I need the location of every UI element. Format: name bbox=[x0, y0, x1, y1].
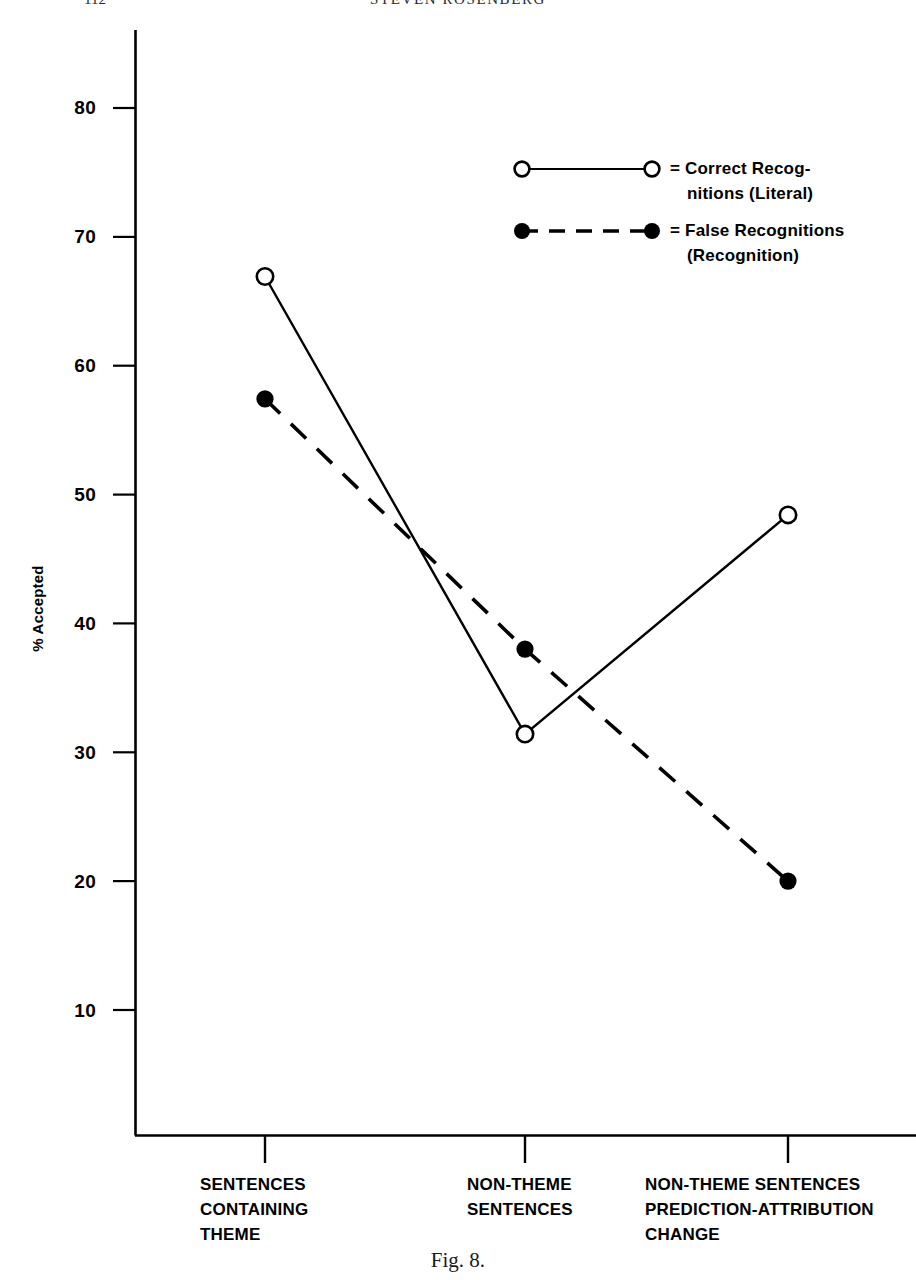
series-false-recognitions bbox=[256, 390, 796, 889]
legend-label-false-recognitions: = False Recognitions (Recognition) bbox=[670, 218, 845, 268]
x-category-label-2: NON-THEME SENTENCES bbox=[467, 1172, 573, 1222]
x-category-label-3-line-2: PREDICTION-ATTRIBUTION bbox=[645, 1197, 874, 1222]
y-axis-title: % Accepted bbox=[29, 549, 46, 669]
data-point-false-3 bbox=[779, 873, 796, 890]
series-correct-recognitions-line bbox=[265, 277, 788, 735]
x-category-label-1-line-3: THEME bbox=[200, 1222, 308, 1247]
data-point-correct-3 bbox=[780, 507, 796, 523]
y-tick-label-80: 80 bbox=[40, 97, 96, 119]
x-category-label-1-line-1: SENTENCES bbox=[200, 1172, 308, 1197]
x-category-label-2-line-2: SENTENCES bbox=[467, 1197, 573, 1222]
legend-label-correct-line-1: = Correct Recog- bbox=[670, 156, 813, 181]
legend-marker-open-circle-solid-line bbox=[512, 158, 662, 180]
data-point-false-2 bbox=[516, 641, 533, 658]
series-false-recognitions-line bbox=[265, 399, 788, 881]
x-category-label-1: SENTENCES CONTAINING THEME bbox=[200, 1172, 308, 1247]
legend-row-correct-recognitions: = Correct Recog- nitions (Literal) bbox=[512, 158, 916, 220]
legend-row-false-recognitions: = False Recognitions (Recognition) bbox=[512, 220, 916, 282]
x-category-label-3-line-1: NON-THEME SENTENCES bbox=[645, 1172, 874, 1197]
legend-label-correct-recognitions: = Correct Recog- nitions (Literal) bbox=[670, 156, 813, 206]
data-point-false-1 bbox=[256, 390, 273, 407]
figure-caption: Fig. 8. bbox=[0, 1248, 916, 1273]
x-category-label-3: NON-THEME SENTENCES PREDICTION-ATTRIBUTI… bbox=[645, 1172, 874, 1247]
x-category-label-1-line-2: CONTAINING bbox=[200, 1197, 308, 1222]
y-tick-label-50: 50 bbox=[40, 484, 96, 506]
legend-marker-filled-circle-dashed-line bbox=[512, 220, 662, 242]
legend-label-false-line-2: (Recognition) bbox=[670, 243, 845, 268]
x-axis-ticks bbox=[265, 1135, 788, 1163]
y-tick-label-30: 30 bbox=[40, 742, 96, 764]
data-point-correct-1 bbox=[257, 268, 273, 284]
legend-label-false-line-1: = False Recognitions bbox=[670, 218, 845, 243]
figure-panel: % Accepted 80 70 60 50 40 30 20 10 SENTE… bbox=[0, 0, 916, 1280]
y-tick-label-20: 20 bbox=[40, 871, 96, 893]
legend-label-correct-line-2: nitions (Literal) bbox=[670, 181, 813, 206]
y-tick-label-70: 70 bbox=[40, 226, 96, 248]
x-category-label-2-line-1: NON-THEME bbox=[467, 1172, 573, 1197]
y-tick-label-10: 10 bbox=[40, 1000, 96, 1022]
y-tick-label-60: 60 bbox=[40, 355, 96, 377]
y-tick-label-40: 40 bbox=[40, 613, 96, 635]
chart-legend: = Correct Recog- nitions (Literal) = Fal… bbox=[512, 158, 916, 282]
data-point-correct-2 bbox=[517, 726, 533, 742]
y-axis-ticks bbox=[113, 108, 135, 1010]
series-correct-recognitions bbox=[257, 268, 796, 742]
x-category-label-3-line-3: CHANGE bbox=[645, 1222, 874, 1247]
